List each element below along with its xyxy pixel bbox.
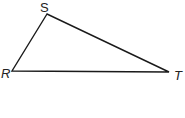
vertex-label-t: T: [174, 68, 183, 83]
triangle-rst: [12, 14, 169, 72]
vertex-label-s: S: [40, 0, 49, 15]
triangle-diagram: S R T: [0, 0, 185, 118]
vertex-label-r: R: [1, 66, 10, 81]
